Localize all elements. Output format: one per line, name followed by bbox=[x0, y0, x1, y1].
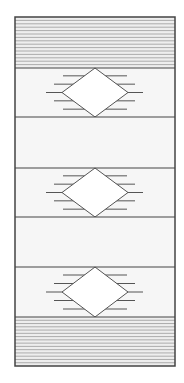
rug-pattern-figure bbox=[0, 0, 184, 383]
striped-band bbox=[15, 317, 175, 366]
striped-band bbox=[15, 17, 175, 68]
plain-panel bbox=[15, 117, 175, 168]
plain-panel bbox=[15, 217, 175, 267]
